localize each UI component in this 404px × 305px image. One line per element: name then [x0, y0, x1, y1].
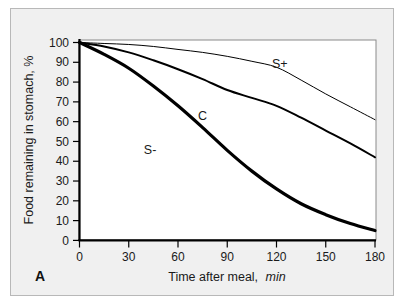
y-tick-label: 30	[56, 174, 70, 188]
x-tick-label: 60	[171, 250, 185, 264]
y-tick-label: 10	[56, 214, 70, 228]
x-tick-label: 150	[316, 250, 336, 264]
x-tick-label: 0	[76, 250, 83, 264]
stomach-emptying-line-chart: 0102030405060708090100 0306090120150180 …	[11, 9, 393, 295]
y-tick-label: 70	[56, 95, 70, 109]
x-axis-title-unit: min	[266, 270, 286, 284]
panel-letter: A	[35, 268, 45, 284]
y-tick-label: 20	[56, 194, 70, 208]
y-axis-ticks: 0102030405060708090100	[49, 36, 80, 248]
plot-area-frame	[79, 40, 376, 240]
y-tick-label: 100	[49, 36, 69, 50]
x-axis-title: Time after meal, min	[168, 270, 286, 284]
y-tick-label: 50	[56, 135, 70, 149]
y-axis-title: Food remaining in stomach, %	[22, 56, 36, 225]
series-label-Sminus: S-	[144, 143, 157, 157]
y-tick-label: 90	[56, 55, 70, 69]
chart-stage: 0102030405060708090100 0306090120150180 …	[11, 9, 393, 295]
figure-panel: 0102030405060708090100 0306090120150180 …	[10, 8, 394, 296]
x-tick-label: 90	[221, 250, 235, 264]
series-label-Splus: S+	[272, 57, 288, 71]
x-tick-label: 180	[365, 250, 385, 264]
y-tick-label: 60	[56, 115, 70, 129]
x-axis-title-main: Time after meal,	[168, 270, 258, 284]
x-axis-ticks: 0306090120150180	[76, 240, 385, 264]
y-tick-label: 0	[62, 234, 69, 248]
y-tick-label: 80	[56, 75, 70, 89]
y-tick-label: 40	[56, 154, 70, 168]
x-tick-label: 120	[266, 250, 286, 264]
series-label-C: C	[198, 109, 207, 123]
x-tick-label: 30	[122, 250, 136, 264]
